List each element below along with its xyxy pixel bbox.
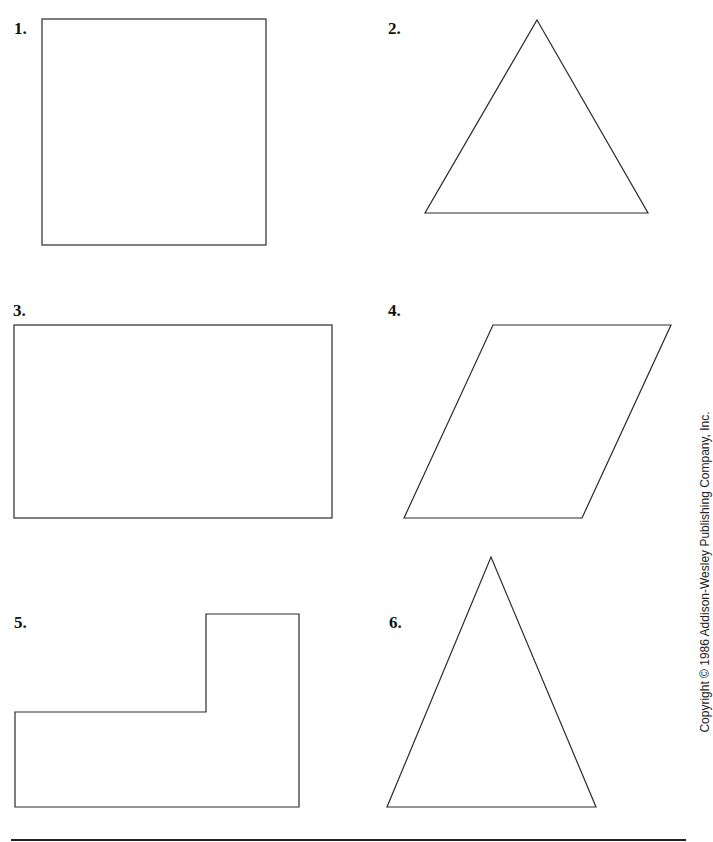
- shape-1-square: [42, 19, 266, 245]
- problem-6-label: 6.: [389, 614, 402, 631]
- shapes-canvas: [0, 0, 713, 842]
- problem-3-label: 3.: [13, 302, 26, 319]
- problem-4-label: 4.: [388, 302, 401, 319]
- shape-6-triangle: [387, 557, 596, 807]
- shape-2-triangle: [425, 20, 648, 213]
- shape-4-parallelogram: [404, 325, 671, 518]
- copyright-notice: Copyright © 1986 Addison-Wesley Publishi…: [698, 411, 712, 732]
- shape-3-rectangle: [14, 325, 332, 518]
- problem-2-label: 2.: [388, 20, 401, 37]
- bottom-rule-divider: [11, 839, 686, 841]
- worksheet-page: 1. 2. 3. 4. 5. 6. Copyright © 1986 Addis…: [0, 0, 713, 842]
- problem-1-label: 1.: [14, 20, 27, 37]
- problem-5-label: 5.: [14, 614, 27, 631]
- shape-5-l-shape: [15, 614, 299, 807]
